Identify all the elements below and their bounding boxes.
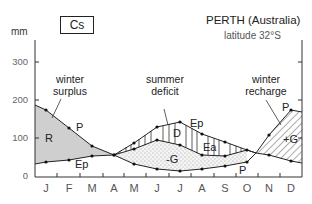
- curve-label-precip: P: [76, 121, 83, 133]
- annotation-line: surplus: [50, 85, 90, 97]
- annotation-winter-recharge: winter recharge: [242, 73, 290, 97]
- annotation-line: winter: [50, 73, 90, 85]
- x-tick-label: J: [173, 182, 187, 194]
- x-tick-label: A: [195, 182, 209, 194]
- annotation-line: recharge: [242, 85, 290, 97]
- y-tick-label: 200: [4, 94, 28, 105]
- annotation-line: winter: [242, 73, 290, 85]
- y-tick-label: 300: [4, 56, 28, 67]
- curve-label-precip-right: P: [282, 101, 289, 113]
- region-label-deficit: D: [173, 127, 181, 139]
- x-tick-label: J: [39, 182, 53, 194]
- curve-label-evap: Ep: [75, 158, 88, 170]
- x-tick-label: M: [85, 182, 99, 194]
- annotation-line: summer: [143, 73, 187, 85]
- curve-label-precip-bottom: P: [239, 164, 246, 176]
- annotation-summer-deficit: summer deficit: [143, 73, 187, 97]
- x-ticks: [57, 173, 280, 177]
- region-label-soil-utilisation: -G: [166, 153, 178, 165]
- region-label-surplus: R: [45, 132, 53, 144]
- y-tick-label: 100: [4, 132, 28, 143]
- x-tick-label: S: [218, 182, 232, 194]
- x-tick-label: A: [107, 182, 121, 194]
- x-tick-label: O: [240, 182, 254, 194]
- chart-plot: [0, 0, 312, 204]
- y-tick-label: 0: [4, 170, 28, 181]
- x-tick-label: D: [284, 182, 298, 194]
- x-tick-label: N: [262, 182, 276, 194]
- x-tick-label: J: [150, 182, 164, 194]
- annotation-line: deficit: [143, 85, 187, 97]
- curve-label-evap-mid: Ep: [190, 117, 203, 129]
- x-tick-label: M: [127, 182, 141, 194]
- x-tick-label: F: [62, 182, 76, 194]
- annotation-leaders: [52, 99, 281, 125]
- region-label-actual-evap: Ea: [203, 141, 216, 153]
- annotation-winter-surplus: winter surplus: [50, 73, 90, 97]
- region-label-recharge: +G: [283, 133, 298, 145]
